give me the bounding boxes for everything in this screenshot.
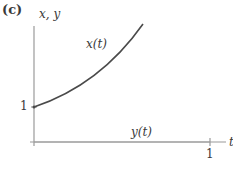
- x-curve: [34, 24, 143, 107]
- x-curve-start-point: [33, 106, 36, 109]
- plot-canvas: [0, 0, 233, 192]
